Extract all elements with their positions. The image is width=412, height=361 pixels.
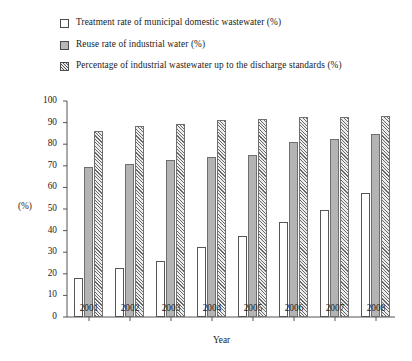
bar: [94, 131, 103, 317]
bar: [340, 117, 349, 317]
x-axis-tick-label: 2007: [315, 303, 355, 313]
bar: [330, 139, 339, 317]
bar: [371, 134, 380, 317]
bar: [125, 164, 134, 317]
bar: [217, 120, 226, 317]
x-axis-tick-label: 2001: [69, 303, 109, 313]
y-axis-tick-label: 40: [35, 225, 57, 235]
x-axis-tick-label: 2004: [192, 303, 232, 313]
y-axis-tick-label: 70: [35, 160, 57, 170]
y-axis-tick-label: 0: [35, 311, 57, 321]
bar: [361, 193, 370, 317]
y-axis-tick-label: 20: [35, 268, 57, 278]
y-axis-tick-label: 100: [35, 95, 57, 105]
bar: [207, 157, 216, 317]
bar: [289, 142, 298, 317]
bar: [381, 116, 390, 317]
bar: [84, 167, 93, 317]
bar: [320, 210, 329, 317]
y-axis-title: (%): [18, 201, 32, 211]
bar: [166, 160, 175, 317]
bar: [176, 124, 185, 317]
y-axis-tick-label: 30: [35, 246, 57, 256]
x-axis-title: Year: [213, 335, 230, 345]
y-axis-tick-label: 50: [35, 203, 57, 213]
y-axis-tick-label: 60: [35, 181, 57, 191]
bar: [299, 117, 308, 317]
x-axis-tick-label: 2002: [110, 303, 150, 313]
y-axis-tick-label: 10: [35, 289, 57, 299]
x-axis-tick-label: 2008: [356, 303, 396, 313]
bar: [135, 126, 144, 317]
bar: [258, 119, 267, 317]
x-axis-tick-label: 2005: [233, 303, 273, 313]
bar: [248, 155, 257, 317]
x-axis-tick-label: 2006: [274, 303, 314, 313]
y-axis-tick-label: 90: [35, 117, 57, 127]
x-axis-tick-label: 2003: [151, 303, 191, 313]
y-axis-tick-label: 80: [35, 138, 57, 148]
